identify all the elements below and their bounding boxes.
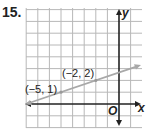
x-axis-label: x [137, 101, 146, 115]
origin-label: O [108, 104, 118, 118]
point-neg5-1 [59, 91, 62, 94]
x-axis [25, 101, 141, 107]
coordinate-graph: (−5, 1) (−2, 2) O x y [0, 0, 152, 136]
point-label-2: (−2, 2) [62, 67, 94, 79]
point-neg2-2 [94, 79, 97, 82]
y-axis-label: y [121, 6, 130, 20]
point-label-1: (−5, 1) [25, 83, 57, 95]
